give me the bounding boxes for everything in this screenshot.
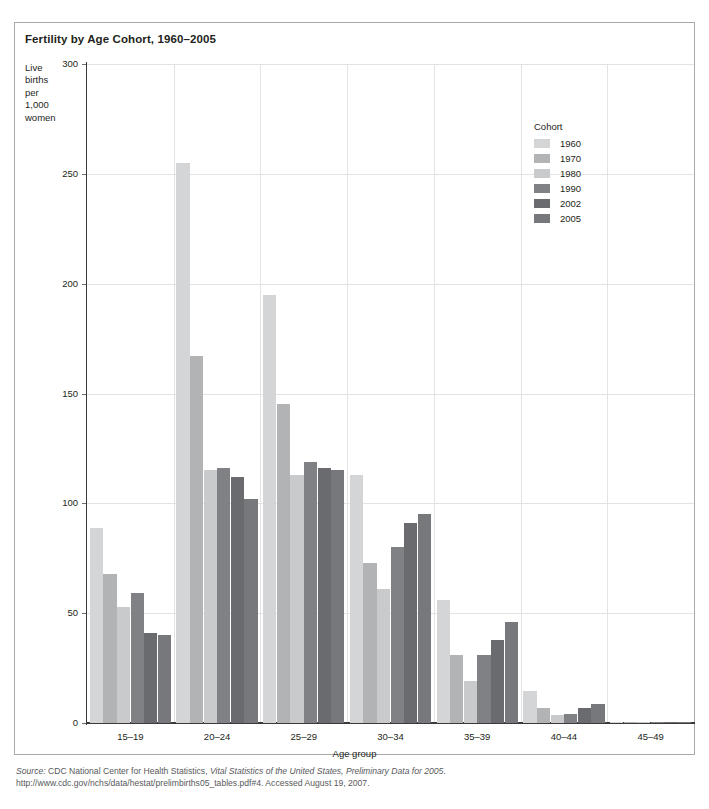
bar[interactable] <box>363 563 376 723</box>
bar-group <box>434 64 521 723</box>
bar[interactable] <box>418 514 431 723</box>
x-tick-label: 30–34 <box>347 731 434 742</box>
y-tick-label: 200 <box>38 278 78 289</box>
bar[interactable] <box>190 356 203 723</box>
bar[interactable] <box>231 477 244 723</box>
bar[interactable] <box>217 468 230 723</box>
legend-label: 1990 <box>560 183 581 194</box>
bar[interactable] <box>204 470 217 723</box>
legend-swatch-icon <box>534 214 550 223</box>
bar-group <box>347 64 434 723</box>
bar[interactable] <box>404 523 417 723</box>
legend-title: Cohort <box>534 121 581 132</box>
legend-swatch-icon <box>534 154 550 163</box>
bar[interactable] <box>117 607 130 723</box>
x-tick-label: 20–24 <box>174 731 261 742</box>
legend-item-2002[interactable]: 2002 <box>534 197 581 211</box>
bar[interactable] <box>450 655 463 723</box>
source-prefix: Source: <box>16 766 46 776</box>
y-tick-label: 100 <box>38 497 78 508</box>
bar[interactable] <box>551 715 564 723</box>
bar[interactable] <box>290 475 303 723</box>
legend-swatch-icon <box>534 169 550 178</box>
y-axis-label-line-1: births <box>25 74 77 86</box>
source-publication: Vital Statistics of the United States, P… <box>210 766 443 776</box>
source-text-a: CDC National Center for Health Statistic… <box>46 766 210 776</box>
bar[interactable] <box>610 722 623 723</box>
bar[interactable] <box>318 468 331 723</box>
y-axis-label-line-2: per <box>25 87 77 99</box>
bar[interactable] <box>651 722 664 723</box>
y-axis-label-line-4: women <box>25 112 77 124</box>
bar-group <box>87 64 174 723</box>
bar[interactable] <box>176 163 189 723</box>
x-tick-label: 45–49 <box>607 731 694 742</box>
legend-label: 1960 <box>560 138 581 149</box>
bar[interactable] <box>263 295 276 723</box>
legend-item-2005[interactable]: 2005 <box>534 212 581 226</box>
chart-page: Fertility by Age Cohort, 1960–2005 Liveb… <box>0 0 709 809</box>
legend-label: 1970 <box>560 153 581 164</box>
bar[interactable] <box>464 681 477 723</box>
source-note: Source: CDC National Center for Health S… <box>16 766 676 789</box>
bar[interactable] <box>158 635 171 723</box>
y-tick-label: 300 <box>38 58 78 69</box>
bar[interactable] <box>523 691 536 723</box>
bar[interactable] <box>477 655 490 723</box>
legend-item-1960[interactable]: 1960 <box>534 137 581 151</box>
bar-group <box>607 64 694 723</box>
legend: Cohort 196019701980199020022005 <box>534 121 581 227</box>
bar[interactable] <box>637 722 650 723</box>
legend-item-1980[interactable]: 1980 <box>534 167 581 181</box>
bar[interactable] <box>90 528 103 724</box>
bar[interactable] <box>377 589 390 723</box>
y-tick-label: 0 <box>38 717 78 728</box>
plot-area <box>87 64 694 723</box>
bar[interactable] <box>391 547 404 723</box>
bar[interactable] <box>304 462 317 723</box>
bar[interactable] <box>491 640 504 723</box>
bar[interactable] <box>564 714 577 723</box>
bar-group <box>260 64 347 723</box>
source-text-b: . <box>443 766 445 776</box>
legend-label: 2005 <box>560 213 581 224</box>
bar[interactable] <box>591 704 604 723</box>
y-axis-label-line-3: 1,000 <box>25 99 77 111</box>
legend-swatch-icon <box>534 139 550 148</box>
bar[interactable] <box>624 722 637 723</box>
bar[interactable] <box>131 593 144 723</box>
bar[interactable] <box>578 708 591 723</box>
x-tick-label: 15–19 <box>87 731 174 742</box>
x-axis-title: Age group <box>0 748 709 759</box>
bar[interactable] <box>277 404 290 723</box>
bar[interactable] <box>437 600 450 723</box>
y-axis-label: Livebirthsper1,000women <box>25 62 77 124</box>
x-tick-label: 35–39 <box>434 731 521 742</box>
legend-label: 1980 <box>560 168 581 179</box>
bar[interactable] <box>244 499 257 723</box>
chart-title: Fertility by Age Cohort, 1960–2005 <box>25 33 216 45</box>
bar[interactable] <box>678 722 691 723</box>
source-url-line: http://www.cdc.gov/nchs/data/hestat/prel… <box>16 778 676 790</box>
x-tick-label: 25–29 <box>260 731 347 742</box>
bar[interactable] <box>331 470 344 723</box>
legend-swatch-icon <box>534 199 550 208</box>
bar[interactable] <box>505 622 518 723</box>
x-tick-label: 40–44 <box>521 731 608 742</box>
bar[interactable] <box>537 708 550 723</box>
bar[interactable] <box>664 722 677 723</box>
legend-item-1970[interactable]: 1970 <box>534 152 581 166</box>
legend-swatch-icon <box>534 184 550 193</box>
bar[interactable] <box>103 574 116 723</box>
y-tick-label: 50 <box>38 607 78 618</box>
y-tick-label: 150 <box>38 388 78 399</box>
bar[interactable] <box>350 475 363 723</box>
legend-item-1990[interactable]: 1990 <box>534 182 581 196</box>
bar-group <box>174 64 261 723</box>
y-tick-label: 250 <box>38 168 78 179</box>
bar[interactable] <box>144 633 157 723</box>
legend-label: 2002 <box>560 198 581 209</box>
